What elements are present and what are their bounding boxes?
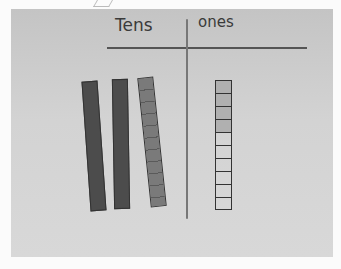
ones-cell xyxy=(216,172,231,185)
paper: Tens ones xyxy=(11,9,333,257)
ones-cell xyxy=(216,94,231,107)
ones-cell xyxy=(216,133,231,146)
ones-cell xyxy=(216,185,231,198)
tens-rod xyxy=(137,77,167,208)
ones-cell xyxy=(216,107,231,120)
ones-cell xyxy=(216,159,231,172)
tens-rod xyxy=(112,79,130,209)
tens-header: Tens xyxy=(115,15,153,35)
ones-cell xyxy=(216,198,231,210)
tens-rod xyxy=(81,81,106,212)
shadow-mark xyxy=(93,0,113,7)
ones-cell xyxy=(216,146,231,159)
header-underline xyxy=(107,47,307,49)
ones-header: ones xyxy=(198,13,234,31)
ones-cell xyxy=(216,81,231,94)
ones-column xyxy=(215,80,232,210)
column-divider xyxy=(186,19,188,219)
ones-cell xyxy=(216,120,231,133)
